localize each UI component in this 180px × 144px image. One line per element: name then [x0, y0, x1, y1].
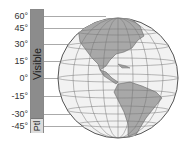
globe-icon [0, 0, 180, 144]
